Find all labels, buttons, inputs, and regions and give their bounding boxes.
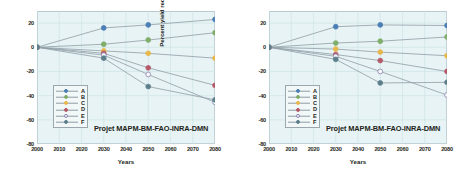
data-point-F — [378, 81, 383, 86]
data-point-E — [146, 72, 151, 77]
y-tick-label: 0 — [31, 44, 34, 50]
legend-dot — [296, 89, 300, 93]
y-axis-label: Percent yield reduction (B2) — [155, 0, 169, 93]
legend-b2: ABCDEF — [285, 85, 320, 128]
x-tick-label: 2070 — [187, 146, 199, 152]
y-tick-label: -60 — [27, 117, 35, 123]
data-point-B — [378, 39, 383, 44]
x-axis-label: Years — [269, 158, 447, 165]
data-point-C — [445, 53, 447, 58]
data-point-A — [146, 23, 151, 28]
y-tick-label: -40 — [259, 93, 267, 99]
data-point-D — [146, 65, 151, 70]
y-tick-label: 0 — [263, 44, 266, 50]
y-tick-label: 20 — [28, 20, 34, 26]
annotation-text: Projet MAPM-BM-FAO-INRA-DMN — [94, 124, 208, 133]
x-tick-label: 2080 — [209, 146, 221, 152]
data-point-F — [269, 45, 271, 50]
x-tick-label: 2050 — [142, 146, 154, 152]
x-tick-label: 2010 — [285, 146, 297, 152]
x-tick-label: 2020 — [76, 146, 88, 152]
data-point-B — [333, 41, 338, 46]
data-point-D — [378, 58, 383, 63]
chart-panel-b2: Percent yield reduction (B2) 200-20-40-6… — [232, 0, 464, 172]
x-tick-label: 2050 — [374, 146, 386, 152]
y-tick-label: -60 — [259, 117, 267, 123]
legend-dot — [64, 101, 68, 105]
plot-area-a2: 200-20-40-60-80 200020102020203020402050… — [37, 11, 215, 144]
legend-dot — [296, 101, 300, 105]
legend-dot — [296, 120, 300, 124]
data-point-F — [333, 57, 338, 62]
data-point-C — [146, 51, 151, 56]
data-point-F — [445, 80, 447, 85]
data-point-F — [213, 97, 215, 102]
data-point-F — [146, 84, 151, 89]
legend-dot — [64, 89, 68, 93]
data-point-C — [213, 56, 215, 61]
legend-label: F — [313, 119, 316, 125]
legend-dot — [64, 107, 68, 111]
legend-dot — [64, 114, 68, 118]
annotation-text: Projet MAPM-BM-FAO-INRA-DMN — [326, 124, 440, 133]
x-tick-label: 2030 — [330, 146, 342, 152]
x-tick-label: 2060 — [397, 146, 409, 152]
x-tick-label: 2040 — [352, 146, 364, 152]
data-point-F — [101, 56, 106, 61]
legend-dot — [64, 120, 68, 124]
legend-label: F — [81, 119, 84, 125]
data-point-D — [213, 83, 215, 88]
legend-a2: ABCDEF — [53, 85, 88, 128]
x-tick-label: 2070 — [419, 146, 431, 152]
x-tick-label: 2010 — [53, 146, 65, 152]
data-point-A — [445, 23, 447, 28]
data-point-F — [37, 45, 39, 50]
x-tick-label: 2060 — [165, 146, 177, 152]
legend-item-F[interactable]: F — [288, 119, 317, 125]
legend-dot — [296, 107, 300, 111]
legend-marker-F — [56, 119, 78, 125]
legend-item-F[interactable]: F — [56, 119, 85, 125]
y-tick-label: 20 — [260, 20, 266, 26]
x-tick-label: 2000 — [31, 146, 43, 152]
data-point-A — [333, 24, 338, 29]
data-point-B — [213, 30, 215, 35]
data-point-C — [333, 47, 338, 52]
data-point-A — [378, 23, 383, 28]
legend-dot — [64, 95, 68, 99]
y-tick-label: -20 — [27, 68, 35, 74]
x-axis-label: Years — [37, 158, 215, 165]
data-point-B — [101, 42, 106, 47]
x-tick-label: 2030 — [98, 146, 110, 152]
legend-dot — [296, 114, 300, 118]
legend-marker-F — [288, 119, 310, 125]
data-point-A — [213, 17, 215, 22]
chart-panel-a2: Percent yield reduction (A2) 200-20-40-6… — [0, 0, 232, 172]
x-tick-label: 2000 — [263, 146, 275, 152]
dual-chart-figure: Percent yield reduction (A2) 200-20-40-6… — [0, 0, 464, 172]
x-tick-label: 2040 — [120, 146, 132, 152]
x-tick-label: 2020 — [308, 146, 320, 152]
legend-dot — [296, 95, 300, 99]
y-tick-label: -40 — [27, 93, 35, 99]
data-point-B — [146, 38, 151, 43]
plot-area-b2: 200-20-40-60-80 200020102020203020402050… — [269, 11, 447, 144]
x-tick-label: 2080 — [441, 146, 453, 152]
data-point-E — [378, 69, 383, 74]
data-point-B — [445, 35, 447, 40]
data-point-E — [445, 93, 447, 98]
data-point-D — [445, 69, 447, 74]
data-point-C — [378, 50, 383, 55]
y-tick-label: -20 — [259, 68, 267, 74]
data-point-A — [101, 26, 106, 31]
